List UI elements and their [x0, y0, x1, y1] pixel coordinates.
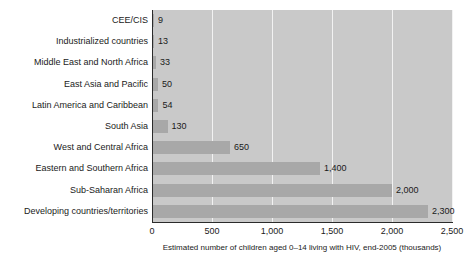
- category-label: Eastern and Southern Africa: [0, 158, 148, 179]
- bar-value-label: 1,400: [324, 160, 347, 177]
- bar-value-label: 33: [160, 54, 170, 71]
- bar-row: 54: [152, 95, 452, 116]
- x-tick-label: 2,000: [381, 226, 404, 236]
- category-label: South Asia: [0, 116, 148, 137]
- category-label: Sub-Saharan Africa: [0, 180, 148, 201]
- bar-value-label: 13: [158, 33, 168, 50]
- horizontal-bar-chart: 9133350541306501,4002,0002,300 Estimated…: [0, 0, 466, 266]
- x-tick-label: 1,500: [321, 226, 344, 236]
- category-label: Middle East and North Africa: [0, 52, 148, 73]
- x-tick-label: 2,500: [441, 226, 464, 236]
- x-axis-title: Estimated number of children aged 0–14 l…: [152, 243, 452, 252]
- category-label: West and Central Africa: [0, 137, 148, 158]
- bar-value-label: 650: [234, 139, 249, 156]
- bar-row: 1,400: [152, 158, 452, 179]
- x-tick-label: 0: [149, 226, 154, 236]
- x-tick-label: 500: [204, 226, 219, 236]
- bar-row: 650: [152, 137, 452, 158]
- y-axis-line: [152, 10, 153, 223]
- bar: [152, 141, 230, 154]
- category-label: Industrialized countries: [0, 31, 148, 52]
- x-tick-label: 1,000: [261, 226, 284, 236]
- gridline: [452, 10, 453, 222]
- bar-row: 2,300: [152, 201, 452, 222]
- bar-value-label: 9: [158, 12, 163, 29]
- bar-value-label: 130: [172, 118, 187, 135]
- bar-row: 2,000: [152, 180, 452, 201]
- plot-area: 9133350541306501,4002,0002,300: [152, 10, 452, 222]
- bar: [152, 120, 168, 133]
- category-label: CEE/CIS: [0, 10, 148, 31]
- category-label: Developing countries/territories: [0, 201, 148, 222]
- bar-row: 50: [152, 74, 452, 95]
- bar-value-label: 50: [162, 76, 172, 93]
- bar-value-label: 54: [162, 97, 172, 114]
- bar-row: 13: [152, 31, 452, 52]
- bar-row: 9: [152, 10, 452, 31]
- bar: [152, 162, 320, 175]
- category-label: Latin America and Caribbean: [0, 95, 148, 116]
- x-axis-line: [152, 222, 453, 223]
- category-label: East Asia and Pacific: [0, 74, 148, 95]
- bar-row: 130: [152, 116, 452, 137]
- bar-value-label: 2,000: [396, 182, 419, 199]
- bar-value-label: 2,300: [432, 203, 455, 220]
- bar: [152, 184, 392, 197]
- bar: [152, 205, 428, 218]
- bar-row: 33: [152, 52, 452, 73]
